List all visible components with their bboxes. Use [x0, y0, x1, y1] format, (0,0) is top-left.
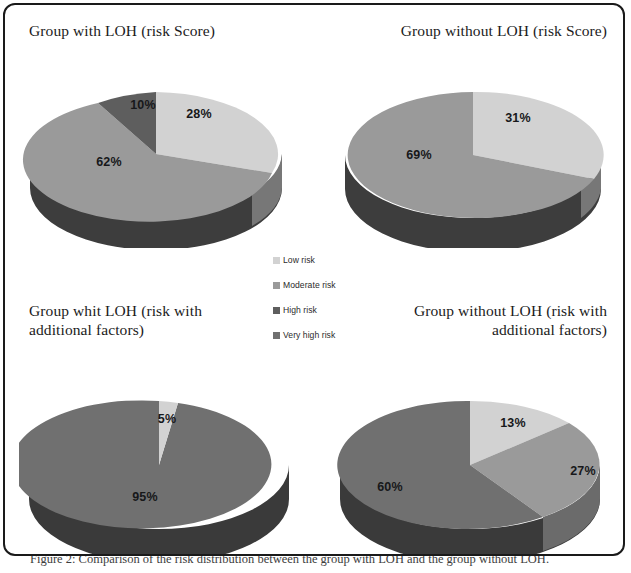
- pie-tl-label-low-risk: 28%: [186, 107, 212, 121]
- pie-br-label-moderate-risk: 27%: [570, 464, 596, 478]
- figure-caption: Figure 2: Comparison of the risk distrib…: [30, 556, 549, 567]
- pie-br-labels: 13% 27% 60%: [330, 373, 610, 556]
- pie-br-label-very-high-risk: 60%: [377, 480, 403, 494]
- legend-label-moderate-risk: Moderate risk: [283, 280, 336, 290]
- figure-caption-strip: Figure 2: Comparison of the risk distrib…: [0, 556, 631, 573]
- legend-label-low-risk: Low risk: [283, 255, 315, 265]
- pie-tr-labels: 31% 69%: [335, 63, 610, 248]
- legend-item-high-risk: High risk: [273, 300, 393, 320]
- legend-label-high-risk: High risk: [283, 305, 317, 315]
- pie-bl-labels: 5% 95%: [19, 373, 299, 556]
- legend: Low risk Moderate risk High risk Very hi…: [273, 250, 393, 350]
- pie-tr-label-low-risk: 31%: [505, 111, 531, 125]
- pie-tl-labels: 28% 62% 10%: [21, 63, 291, 248]
- pie-bl-label-very-high-risk: 95%: [132, 490, 158, 504]
- chart-title-top-left: Group with LOH (risk Score): [29, 21, 309, 40]
- legend-swatch-high-risk-icon: [273, 307, 280, 314]
- legend-label-very-high-risk: Very high risk: [283, 330, 335, 340]
- pie-chart-bottom-right: 13% 27% 60%: [330, 373, 610, 556]
- chart-title-bottom-right: Group without LOH (risk with additional …: [357, 301, 607, 339]
- legend-swatch-very-high-risk-icon: [273, 332, 280, 339]
- legend-item-moderate-risk: Moderate risk: [273, 275, 393, 295]
- pie-bl-label-low-risk: 5%: [158, 412, 176, 426]
- legend-swatch-low-risk-icon: [273, 257, 280, 264]
- pie-br-label-low-risk: 13%: [500, 416, 526, 430]
- legend-item-low-risk: Low risk: [273, 250, 393, 270]
- chart-title-bottom-left: Group whit LOH (risk with additional fac…: [29, 301, 259, 339]
- pie-tr-label-moderate-risk: 69%: [406, 148, 432, 162]
- legend-swatch-moderate-risk-icon: [273, 282, 280, 289]
- pie-tl-label-moderate-risk: 62%: [96, 155, 122, 169]
- chart-title-top-right: Group without LOH (risk Score): [317, 21, 607, 40]
- figure-frame: Group with LOH (risk Score) Group withou…: [3, 3, 625, 556]
- pie-chart-top-right: 31% 69%: [335, 63, 610, 248]
- pie-tl-label-high-risk: 10%: [130, 98, 156, 112]
- pie-chart-top-left: 28% 62% 10%: [21, 63, 291, 248]
- pie-chart-bottom-left: 5% 95%: [19, 373, 299, 556]
- legend-item-very-high-risk: Very high risk: [273, 325, 393, 345]
